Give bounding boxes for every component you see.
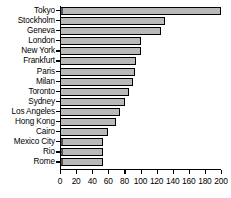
- bar: [60, 128, 108, 136]
- x-axis-tick-label: 140: [166, 176, 179, 186]
- category-label: Geneva: [0, 26, 58, 36]
- x-axis-tick-label: 20: [72, 176, 81, 186]
- plot-area: [60, 6, 221, 168]
- category-label: Stockholm: [0, 16, 58, 26]
- bar: [60, 78, 133, 86]
- bar-row: [60, 67, 221, 77]
- category-label: Los Angeles: [0, 107, 58, 117]
- x-axis-tick: [141, 170, 142, 174]
- bar-row: [60, 107, 221, 117]
- bar-row: [60, 36, 221, 46]
- x-axis-ticks: [60, 170, 221, 174]
- x-axis-tick-label: 80: [120, 176, 129, 186]
- x-axis-tick-label: 40: [88, 176, 97, 186]
- bar: [60, 148, 103, 156]
- bar: [60, 118, 116, 126]
- bar: [60, 88, 129, 96]
- bar-row: [60, 117, 221, 127]
- x-axis-tick: [108, 170, 109, 174]
- x-axis-tick-label: 160: [182, 176, 195, 186]
- x-axis-tick-label: 100: [134, 176, 147, 186]
- x-axis-tick-label: 0: [58, 176, 62, 186]
- x-axis-tick: [157, 170, 158, 174]
- x-axis-tick: [189, 170, 190, 174]
- category-label: Milan: [0, 77, 58, 87]
- category-label: Mexico City: [0, 137, 58, 147]
- x-axis-tick: [60, 170, 61, 174]
- bar: [60, 27, 161, 35]
- bar: [60, 158, 103, 166]
- x-axis-tick-label: 200: [214, 176, 227, 186]
- category-label: Sydney: [0, 97, 58, 107]
- bar: [60, 47, 141, 55]
- bar: [60, 98, 125, 106]
- category-label: Toronto: [0, 87, 58, 97]
- bar-row: [60, 137, 221, 147]
- category-label: New York: [0, 46, 58, 56]
- bar-row: [60, 6, 221, 16]
- bar-row: [60, 97, 221, 107]
- bar-row: [60, 87, 221, 97]
- x-axis-tick: [173, 170, 174, 174]
- category-label: Rio: [0, 147, 58, 157]
- bar: [60, 138, 103, 146]
- x-axis-tick: [221, 170, 222, 174]
- bar-row: [60, 127, 221, 137]
- category-label: Cairo: [0, 127, 58, 137]
- category-axis-labels: TokyoStockholmGenevaLondonNew YorkFrankf…: [0, 6, 58, 168]
- x-axis-tick: [76, 170, 77, 174]
- bar-row: [60, 157, 221, 167]
- bar-row: [60, 147, 221, 157]
- category-label: Frankfurt: [0, 56, 58, 66]
- category-label: Rome: [0, 157, 58, 167]
- x-axis-tick-label: 120: [150, 176, 163, 186]
- x-axis-tick: [92, 170, 93, 174]
- x-axis-tick: [124, 170, 125, 174]
- category-label: Hong Kong: [0, 117, 58, 127]
- bar: [60, 108, 120, 116]
- bar-row: [60, 77, 221, 87]
- bar-row: [60, 46, 221, 56]
- x-axis-tick-labels: 020406080100120140160180200: [0, 176, 231, 190]
- x-axis-tick-label: 180: [198, 176, 211, 186]
- bar: [60, 17, 165, 25]
- category-label: Tokyo: [0, 6, 58, 16]
- bar-chart: TokyoStockholmGenevaLondonNew YorkFrankf…: [0, 0, 231, 198]
- bar-row: [60, 56, 221, 66]
- x-axis-tick: [205, 170, 206, 174]
- bar: [60, 68, 135, 76]
- bar: [60, 57, 136, 65]
- category-label: Paris: [0, 67, 58, 77]
- category-label: London: [0, 36, 58, 46]
- bar: [60, 7, 221, 15]
- bar-row: [60, 16, 221, 26]
- x-axis-tick-label: 60: [104, 176, 113, 186]
- bar: [60, 37, 141, 45]
- bar-row: [60, 26, 221, 36]
